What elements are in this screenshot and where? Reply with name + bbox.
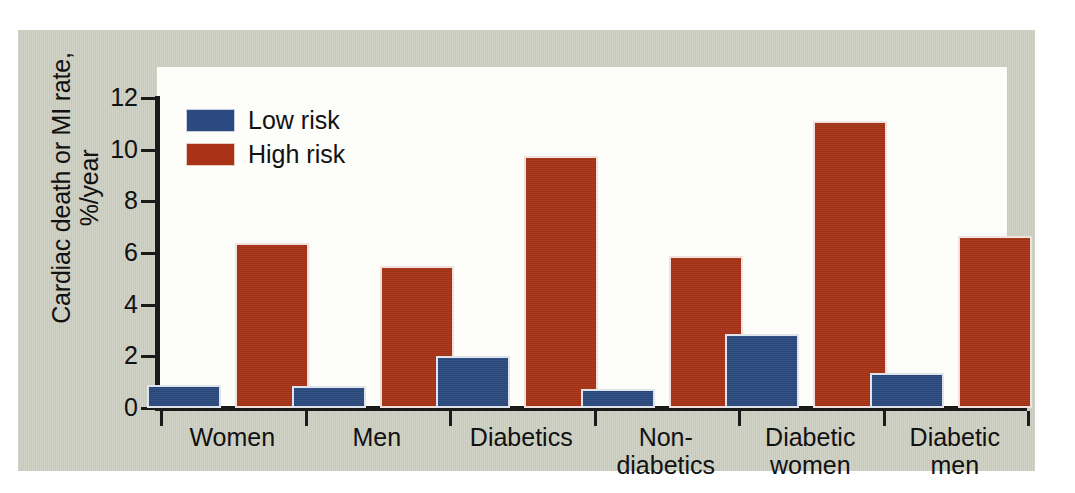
bar-low-risk [870,373,944,408]
y-tick-label-wrap-4: 4 [90,305,138,306]
chart-figure: Cardiac death or MI rate, %/year 0246810… [0,0,1075,493]
bar-group [594,98,739,408]
bar-low-risk [581,389,655,408]
y-tick-mark-2 [141,355,156,358]
bar-low-risk [725,334,799,408]
y-axis-title-line-1: Cardiac death or MI rate, [47,23,75,353]
x-axis-label-line: Diabetic [883,423,1028,451]
y-tick-label-wrap-0: 0 [90,408,138,409]
y-tick-label-wrap-8: 8 [90,201,138,202]
x-axis-label: Men [305,423,450,451]
y-tick-mark-4 [141,304,156,307]
x-axis-label: Diabetics [449,423,594,451]
x-axis-label-line: men [883,451,1028,479]
x-axis-label: Non-diabetics [594,423,739,479]
y-tick-label-wrap-6: 6 [90,253,138,254]
x-axis-label-line: Men [305,423,450,451]
x-axis-separator [1027,411,1030,426]
bar-group [883,98,1028,408]
x-axis-label: Diabeticwomen [738,423,883,479]
x-axis-label-line: Diabetics [449,423,594,451]
y-tick-label-12: 12 [98,85,138,110]
bar-high-risk [958,236,1032,408]
y-tick-label-8: 8 [98,188,138,213]
x-axis-label-line: women [738,451,883,479]
y-tick-label-4: 4 [98,292,138,317]
x-axis-label-line: Diabetic [738,423,883,451]
x-axis-label-line: diabetics [594,451,739,479]
bar-group [449,98,594,408]
y-tick-label-wrap-12: 12 [90,98,138,99]
x-axis-label: Women [160,423,305,451]
y-tick-label-2: 2 [98,343,138,368]
bar-group [738,98,883,408]
bar-group [305,98,450,408]
bar-high-risk [813,121,887,408]
x-axis-label-line: Women [160,423,305,451]
y-tick-mark-12 [141,97,156,100]
bars-layer [160,98,1027,408]
y-tick-label-wrap-2: 2 [90,356,138,357]
bar-low-risk [436,356,510,408]
y-axis-title: Cardiac death or MI rate, %/year [47,23,103,353]
y-tick-label-6: 6 [98,240,138,265]
chart-panel: Cardiac death or MI rate, %/year 0246810… [18,30,1035,471]
bar-low-risk [147,385,221,408]
y-tick-label-0: 0 [98,395,138,420]
y-tick-mark-8 [141,200,156,203]
x-axis-label: Diabeticmen [883,423,1028,479]
y-tick-label-wrap-10: 10 [90,150,138,151]
x-axis-label-line: Non- [594,423,739,451]
y-tick-label-10: 10 [98,137,138,162]
y-tick-mark-10 [141,149,156,152]
bar-low-risk [292,386,366,408]
y-tick-mark-6 [141,252,156,255]
bar-high-risk [235,243,309,408]
bar-group [160,98,305,408]
bar-high-risk [524,156,598,408]
